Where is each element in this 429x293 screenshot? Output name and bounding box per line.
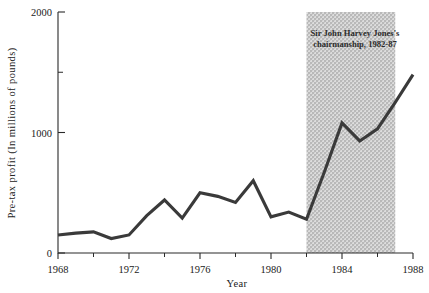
y-tick-label: 0: [47, 248, 52, 259]
x-tick-label: 1968: [48, 264, 69, 275]
y-tick-label: 2000: [31, 7, 52, 18]
x-tick-label: 1984: [332, 264, 354, 275]
x-axis-ticks: [58, 253, 413, 259]
chart-container: 196819721976198019841988 010002000 Sir J…: [0, 0, 429, 293]
x-tick-label: 1988: [403, 264, 424, 275]
x-tick-label: 1972: [119, 264, 140, 275]
x-axis-tick-labels: 196819721976198019841988: [48, 264, 424, 275]
y-tick-label: 1000: [31, 128, 52, 139]
x-axis-title: Year: [227, 278, 248, 289]
annotation-line-2: chairmanship, 1982-87: [313, 39, 397, 49]
y-axis-ticks: [58, 12, 65, 253]
line-chart-svg: 196819721976198019841988 010002000 Sir J…: [0, 0, 429, 293]
y-axis-title: Pre-tax profit (In millions of pounds): [6, 47, 18, 218]
annotation-line-1: Sir John Harvey Jones's: [311, 28, 401, 38]
x-tick-label: 1976: [190, 264, 211, 275]
y-axis-tick-labels: 010002000: [31, 7, 52, 259]
x-tick-label: 1980: [261, 264, 282, 275]
